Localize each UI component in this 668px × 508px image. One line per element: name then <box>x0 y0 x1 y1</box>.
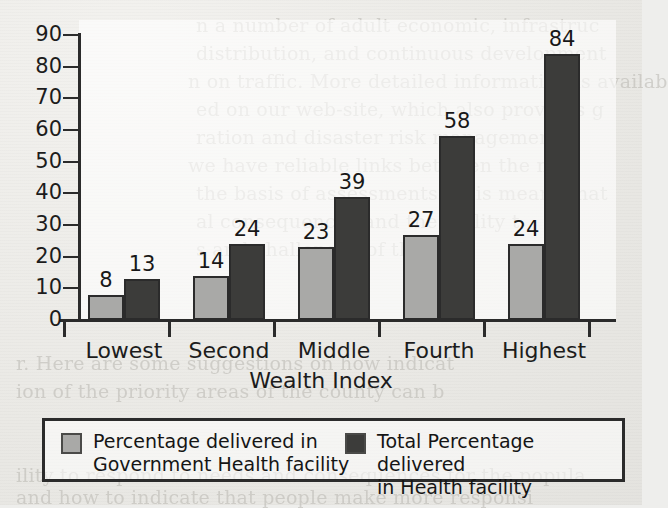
legend-entry-government-health-facility: Percentage delivered in Government Healt… <box>61 430 349 476</box>
legend-label: Total Percentage delivered in Health fac… <box>377 430 622 499</box>
y-axis-tick-labels: 0102030405060708090 <box>0 0 62 340</box>
bar <box>193 276 229 320</box>
y-axis-tick <box>63 34 79 36</box>
y-axis-tick <box>63 224 79 226</box>
bar-value-label: 39 <box>324 172 380 193</box>
legend-label: Percentage delivered in Government Healt… <box>93 430 349 476</box>
y-axis-tick <box>63 161 79 163</box>
bar <box>439 136 475 320</box>
y-axis-tick <box>63 192 79 194</box>
x-axis-group-tick <box>273 322 276 337</box>
y-axis-tick-label: 30 <box>6 214 62 235</box>
y-axis-tick-label: 70 <box>6 87 62 108</box>
y-axis-tick <box>63 66 79 68</box>
bar-value-label: 84 <box>534 29 590 50</box>
y-axis-tick-label: 50 <box>6 151 62 172</box>
bar-chart: 0102030405060708090 8131424233927582484 … <box>0 0 642 400</box>
bar-value-label: 24 <box>219 219 275 240</box>
bar-value-label: 58 <box>429 111 485 132</box>
x-axis-group-tick <box>483 322 486 337</box>
bar <box>334 197 370 321</box>
y-axis-tick <box>63 97 79 99</box>
bar <box>298 247 334 320</box>
bar <box>88 295 124 320</box>
y-axis-tick <box>63 256 79 258</box>
bar <box>544 54 580 320</box>
x-axis-group-tick <box>63 322 66 337</box>
bar <box>508 244 544 320</box>
y-axis-tick-label: 0 <box>6 309 62 330</box>
legend-swatch-dark-icon <box>345 433 366 454</box>
y-axis-tick <box>63 319 79 321</box>
legend-swatch-light-icon <box>61 433 82 454</box>
y-axis-tick-label: 40 <box>6 182 62 203</box>
bar <box>229 244 265 320</box>
x-axis-title: Wealth Index <box>0 368 642 393</box>
y-axis-tick-label: 80 <box>6 56 62 77</box>
chart-legend: Percentage delivered in Government Healt… <box>42 418 625 482</box>
x-axis-group-tick <box>168 322 171 337</box>
y-axis-tick-label: 20 <box>6 246 62 267</box>
bar <box>124 279 160 320</box>
bar-value-label: 13 <box>114 254 170 275</box>
y-axis-tick <box>63 129 79 131</box>
legend-entry-total-health-facility: Total Percentage delivered in Health fac… <box>345 430 622 499</box>
y-axis-tick <box>63 287 79 289</box>
x-axis-group-tick <box>588 322 591 337</box>
bar <box>403 235 439 321</box>
y-axis-tick-label: 90 <box>6 24 62 45</box>
y-axis-tick-label: 10 <box>6 277 62 298</box>
y-axis-tick-label: 60 <box>6 119 62 140</box>
x-axis-category-label: Highest <box>478 338 610 363</box>
x-axis-group-tick <box>378 322 381 337</box>
